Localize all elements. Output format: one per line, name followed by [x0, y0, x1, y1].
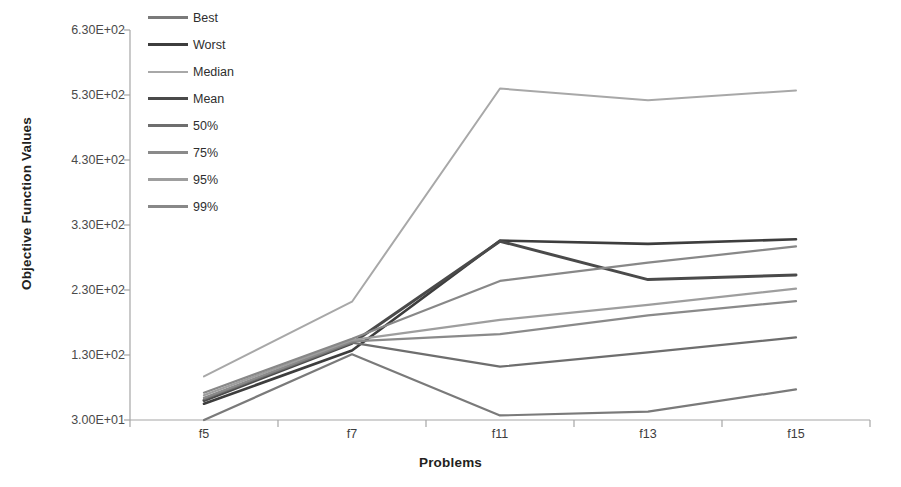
- x-axis-title: Problems: [0, 455, 901, 470]
- legend-item-75pct[interactable]: 75%: [148, 139, 298, 166]
- legend-label: Best: [193, 11, 218, 25]
- legend-item-50pct[interactable]: 50%: [148, 112, 298, 139]
- series-line-75pct: [204, 301, 796, 398]
- legend-item-worst[interactable]: Worst: [148, 31, 298, 58]
- x-tick-label-f5: f5: [199, 427, 209, 441]
- legend-item-99pct[interactable]: 99%: [148, 193, 298, 220]
- legend-swatch-icon: [148, 124, 188, 126]
- legend-swatch-icon: [148, 43, 188, 46]
- legend-swatch-icon: [148, 205, 188, 207]
- legend-swatch-icon: [148, 71, 188, 73]
- legend-item-95pct[interactable]: 95%: [148, 166, 298, 193]
- x-tick-label-f15: f15: [787, 427, 804, 441]
- legend-swatch-icon: [148, 16, 188, 18]
- legend-label: 99%: [193, 200, 218, 214]
- legend-label: 50%: [193, 119, 218, 133]
- legend-label: Worst: [193, 38, 225, 52]
- chart-legend: BestWorstMedianMean50%75%95%99%: [148, 4, 298, 220]
- legend-swatch-icon: [148, 178, 188, 180]
- x-tick-label-f11: f11: [492, 427, 508, 441]
- legend-label: 75%: [193, 146, 218, 160]
- legend-swatch-icon: [148, 97, 188, 100]
- chart-container: Objective Function Values 3.00E+011.30E+…: [0, 0, 901, 487]
- legend-item-mean[interactable]: Mean: [148, 85, 298, 112]
- x-tick-label-f7: f7: [347, 427, 357, 441]
- x-tick-label-f13: f13: [639, 427, 656, 441]
- legend-swatch-icon: [148, 151, 188, 153]
- legend-item-median[interactable]: Median: [148, 58, 298, 85]
- legend-label: 95%: [193, 173, 218, 187]
- legend-label: Median: [193, 65, 234, 79]
- plot-area: [0, 0, 901, 487]
- series-line-95pct: [204, 289, 796, 396]
- legend-label: Mean: [193, 92, 224, 106]
- series-line-50pct: [204, 337, 796, 399]
- series-line-worst: [204, 239, 796, 403]
- legend-item-best[interactable]: Best: [148, 4, 298, 31]
